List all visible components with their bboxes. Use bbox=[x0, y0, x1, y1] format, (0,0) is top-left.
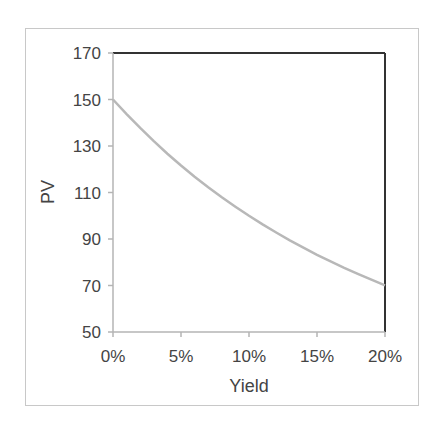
x-tick-label: 5% bbox=[169, 347, 194, 366]
y-axis-title: PV bbox=[38, 180, 58, 204]
pv-yield-chart: 507090110130150170 0%5%10%15%20% Yield P… bbox=[0, 0, 443, 426]
x-tick-label: 10% bbox=[232, 347, 266, 366]
y-tick-label: 150 bbox=[73, 91, 101, 110]
x-axis-ticks: 0%5%10%15%20% bbox=[101, 332, 402, 366]
x-tick-label: 20% bbox=[368, 347, 402, 366]
y-tick-label: 110 bbox=[74, 184, 101, 203]
y-tick-label: 90 bbox=[82, 230, 101, 249]
x-tick-label: 0% bbox=[101, 347, 126, 366]
y-tick-label: 50 bbox=[82, 323, 101, 342]
y-axis-ticks: 507090110130150170 bbox=[73, 44, 113, 342]
y-tick-label: 70 bbox=[82, 277, 101, 296]
y-tick-label: 170 bbox=[73, 44, 101, 63]
x-tick-label: 15% bbox=[300, 347, 334, 366]
y-tick-label: 130 bbox=[73, 137, 101, 156]
pv-curve bbox=[113, 100, 385, 286]
x-axis-title: Yield bbox=[229, 376, 268, 396]
